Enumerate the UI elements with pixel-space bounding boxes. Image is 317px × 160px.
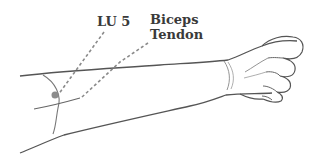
biceps-tendon-label: Biceps Tendon xyxy=(150,12,203,42)
arm-bottom-outline xyxy=(20,93,272,153)
biceps-tendon-label-line2: Tendon xyxy=(150,27,203,42)
thumb-line xyxy=(245,58,268,72)
acupoint-diagram: LU 5 Biceps Tendon xyxy=(0,0,317,160)
lu5-point-marker xyxy=(52,92,59,99)
wrist-crease-1 xyxy=(224,61,229,90)
palm-line xyxy=(244,72,266,78)
arm-top-outline xyxy=(20,41,297,76)
biceps-tendon-label-line1: Biceps xyxy=(150,12,203,27)
elbow-fold-line xyxy=(34,98,80,109)
lu5-label: LU 5 xyxy=(97,14,130,29)
lu5-leader-line xyxy=(58,32,104,95)
